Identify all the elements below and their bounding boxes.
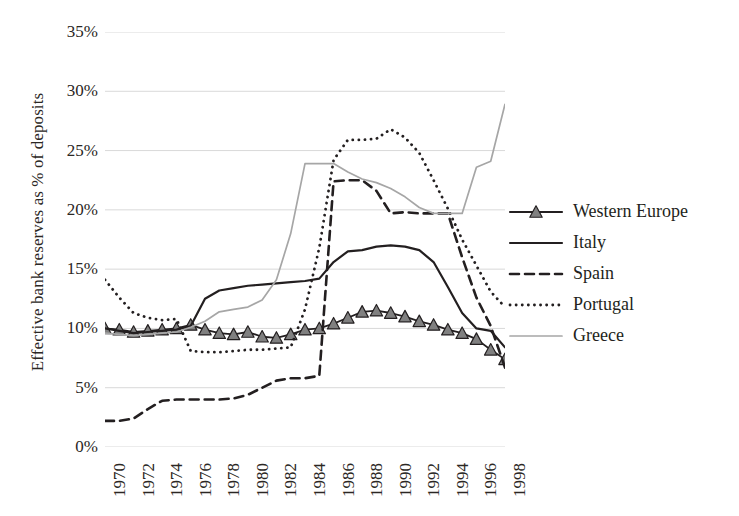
legend-swatch-solid-marker <box>508 202 564 222</box>
legend-swatch-solid <box>508 233 564 253</box>
legend-label: Western Europe <box>573 201 688 222</box>
series-marker <box>442 323 454 334</box>
x-tick-label: 1994 <box>454 463 471 497</box>
legend-label: Spain <box>573 263 614 284</box>
legend-swatch-dotted <box>508 295 564 315</box>
series-spain <box>105 180 505 421</box>
series-marker <box>342 312 354 323</box>
series-western-europe <box>105 304 505 364</box>
series-marker <box>470 333 482 344</box>
legend-swatch-solid-light <box>508 326 564 346</box>
x-tick-label: 1972 <box>140 463 157 497</box>
legend-label: Italy <box>573 232 606 253</box>
x-tick-label: 1978 <box>225 463 242 497</box>
x-tick-label: 1984 <box>311 463 328 497</box>
legend-item-italy[interactable]: Italy <box>508 227 733 258</box>
legend-item-western-europe[interactable]: Western Europe <box>508 196 733 227</box>
series-line <box>105 180 505 421</box>
series-marker <box>199 323 211 334</box>
legend-item-greece[interactable]: Greece <box>508 320 733 351</box>
x-tick-label: 1982 <box>282 463 299 497</box>
x-tick-label: 1980 <box>254 463 271 497</box>
x-tick-label: 1998 <box>511 463 528 497</box>
series-marker <box>242 326 254 337</box>
legend-item-spain[interactable]: Spain <box>508 258 733 289</box>
x-tick-label: 1996 <box>482 463 499 497</box>
x-tick-label: 1986 <box>340 463 357 497</box>
series-marker <box>485 344 497 355</box>
legend-label: Greece <box>573 325 624 346</box>
series-line <box>105 129 505 352</box>
x-tick-label: 1992 <box>425 463 442 497</box>
x-tick-label: 1976 <box>197 463 214 497</box>
series-portugal <box>105 129 505 352</box>
x-tick-label: 1988 <box>368 463 385 497</box>
legend-item-portugal[interactable]: Portugal <box>508 289 733 320</box>
chart-legend: Western EuropeItalySpainPortugalGreece <box>508 196 733 351</box>
plot-area <box>105 32 505 447</box>
x-tick-label: 1970 <box>111 463 128 497</box>
x-tick-label: 1990 <box>397 463 414 497</box>
series-marker <box>413 315 425 326</box>
legend-label: Portugal <box>573 294 634 315</box>
x-tick-label: 1974 <box>168 463 185 497</box>
series-marker <box>327 317 339 328</box>
chart-figure: Effective bank reserves as % of deposits… <box>0 0 739 516</box>
series-line <box>105 104 505 335</box>
legend-swatch-dashed <box>508 264 564 284</box>
series-greece <box>105 104 505 335</box>
